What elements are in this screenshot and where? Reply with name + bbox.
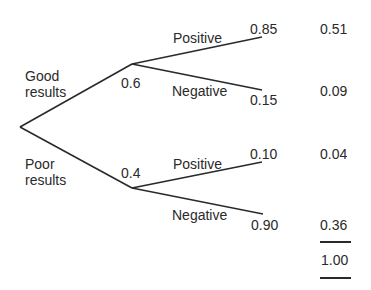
prob-poor-negative: 0.90 <box>251 217 278 233</box>
prob-good-negative: 0.15 <box>250 92 277 108</box>
label-poor: Poor results <box>25 156 66 188</box>
label-poor-positive: Positive <box>173 156 222 172</box>
total-value: 1.00 <box>321 252 348 268</box>
sum-rule-bottom <box>320 277 351 279</box>
label-good-positive: Positive <box>173 30 222 46</box>
prob-poor-positive: 0.10 <box>250 146 277 162</box>
joint-poor-positive: 0.04 <box>320 146 347 162</box>
label-good-line1: Good <box>25 68 66 84</box>
sum-rule-top <box>320 241 351 243</box>
label-good-negative: Negative <box>172 83 227 99</box>
label-good-line2: results <box>25 84 66 100</box>
label-good: Good results <box>25 68 66 100</box>
joint-good-negative: 0.09 <box>320 83 347 99</box>
label-poor-negative: Negative <box>172 207 227 223</box>
joint-good-positive: 0.51 <box>320 21 347 37</box>
joint-poor-negative: 0.36 <box>320 217 347 233</box>
prob-good: 0.6 <box>121 75 140 91</box>
label-poor-line2: results <box>25 172 66 188</box>
prob-poor: 0.4 <box>121 165 140 181</box>
label-poor-line1: Poor <box>25 156 66 172</box>
prob-good-positive: 0.85 <box>250 21 277 37</box>
